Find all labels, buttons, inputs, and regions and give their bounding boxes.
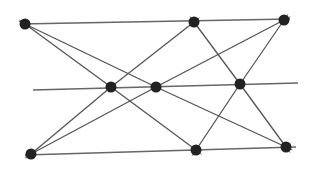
edge-B-F xyxy=(194,22,240,84)
horizontal-line-top xyxy=(20,19,290,24)
edge-C-F xyxy=(240,20,284,84)
node-B xyxy=(189,17,200,28)
edge-F-I xyxy=(240,84,286,147)
node-A xyxy=(20,19,31,30)
edge-B-D xyxy=(111,22,194,87)
diagram-canvas xyxy=(0,0,317,172)
node-E xyxy=(151,82,162,93)
node-F xyxy=(235,79,246,90)
node-H xyxy=(191,145,202,156)
edge-G-E xyxy=(31,87,156,154)
edge-G-D xyxy=(31,87,111,154)
edge-F-H xyxy=(196,84,240,150)
edge-E-I xyxy=(156,87,286,147)
node-D xyxy=(106,82,117,93)
node-G xyxy=(26,149,37,160)
edge-A-E xyxy=(25,24,156,87)
node-I xyxy=(281,142,292,153)
edge-A-D xyxy=(25,24,111,87)
edge-D-H xyxy=(111,87,196,150)
node-C xyxy=(279,15,290,26)
point-line-diagram xyxy=(0,0,317,172)
horizontal-line-bottom xyxy=(25,147,296,155)
edge-C-E xyxy=(156,20,284,87)
horizontal-line-middle xyxy=(33,83,298,90)
